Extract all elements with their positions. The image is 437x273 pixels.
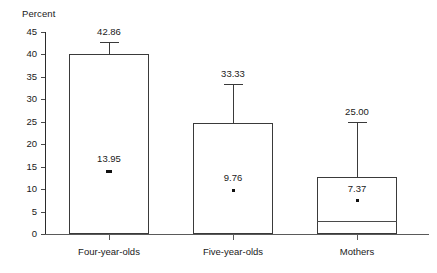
y-axis-tick-label: 15 — [3, 161, 37, 172]
marker-dot — [356, 199, 359, 202]
marker-value-label: 7.37 — [327, 183, 387, 194]
marker-value-label: 9.76 — [203, 172, 263, 183]
x-axis-category-label: Five-year-olds — [178, 246, 288, 257]
y-axis-tick — [41, 54, 45, 55]
y-axis-tick-label: 5 — [3, 206, 37, 217]
whisker-stem — [357, 122, 358, 177]
y-axis-tick — [41, 144, 45, 145]
y-axis-title: Percent — [22, 8, 55, 19]
whisker-cap — [100, 42, 119, 43]
y-axis-tick-label: 45 — [3, 26, 37, 37]
whisker-stem — [109, 42, 110, 55]
whisker-cap — [224, 84, 243, 85]
x-axis-category-label: Mothers — [302, 246, 412, 257]
y-axis-tick — [41, 122, 45, 123]
y-axis-tick-label: 10 — [3, 183, 37, 194]
y-axis-tick-label: 0 — [3, 228, 37, 239]
y-axis-tick — [41, 189, 45, 190]
y-axis-tick — [41, 167, 45, 168]
y-axis-tick — [41, 99, 45, 100]
y-axis-line — [45, 32, 46, 235]
x-axis-tick — [357, 235, 358, 240]
y-axis-tick — [41, 77, 45, 78]
y-axis-tick-label: 20 — [3, 138, 37, 149]
percent-bar-chart: Percent 051015202530354045 Four-year-old… — [0, 0, 437, 273]
bar-inner-line — [317, 221, 397, 222]
whisker-value-label: 25.00 — [327, 106, 387, 117]
y-axis-tick — [41, 212, 45, 213]
y-axis-tick-label: 40 — [3, 48, 37, 59]
whisker-value-label: 33.33 — [203, 68, 263, 79]
y-axis-tick-label: 35 — [3, 71, 37, 82]
whisker-cap — [348, 122, 367, 123]
y-axis-tick-label: 30 — [3, 93, 37, 104]
marker-value-label: 13.95 — [79, 153, 139, 164]
whisker-value-label: 42.86 — [79, 26, 139, 37]
y-axis-tick — [41, 32, 45, 33]
y-axis-tick — [41, 234, 45, 235]
marker-dot — [106, 170, 112, 173]
marker-dot — [232, 189, 235, 192]
bar-four-year-olds[interactable] — [69, 54, 149, 234]
y-axis-tick-label: 25 — [3, 116, 37, 127]
x-axis-line — [45, 234, 429, 235]
x-axis-tick — [109, 235, 110, 240]
x-axis-tick — [233, 235, 234, 240]
whisker-stem — [233, 84, 234, 122]
x-axis-category-label: Four-year-olds — [54, 246, 164, 257]
